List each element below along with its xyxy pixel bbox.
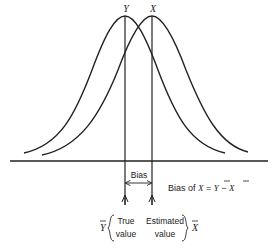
x-peak-label: X (149, 3, 157, 14)
true-line2: value (116, 229, 137, 239)
bias-formula: Bias of X = Y − X (168, 183, 235, 193)
est-line2: value (155, 229, 176, 239)
est-line1: Estimated (146, 216, 184, 226)
true-line1: True (117, 216, 134, 226)
est-symbol: X (191, 222, 199, 233)
bias-diagram: Y X Bias Bias of X = Y − X Y True value … (0, 0, 274, 252)
true-symbol: Y (100, 222, 107, 233)
y-peak-label: Y (123, 3, 130, 14)
x-distribution-curve (42, 16, 248, 155)
bias-label: Bias (131, 170, 148, 180)
left-brace (108, 215, 114, 241)
